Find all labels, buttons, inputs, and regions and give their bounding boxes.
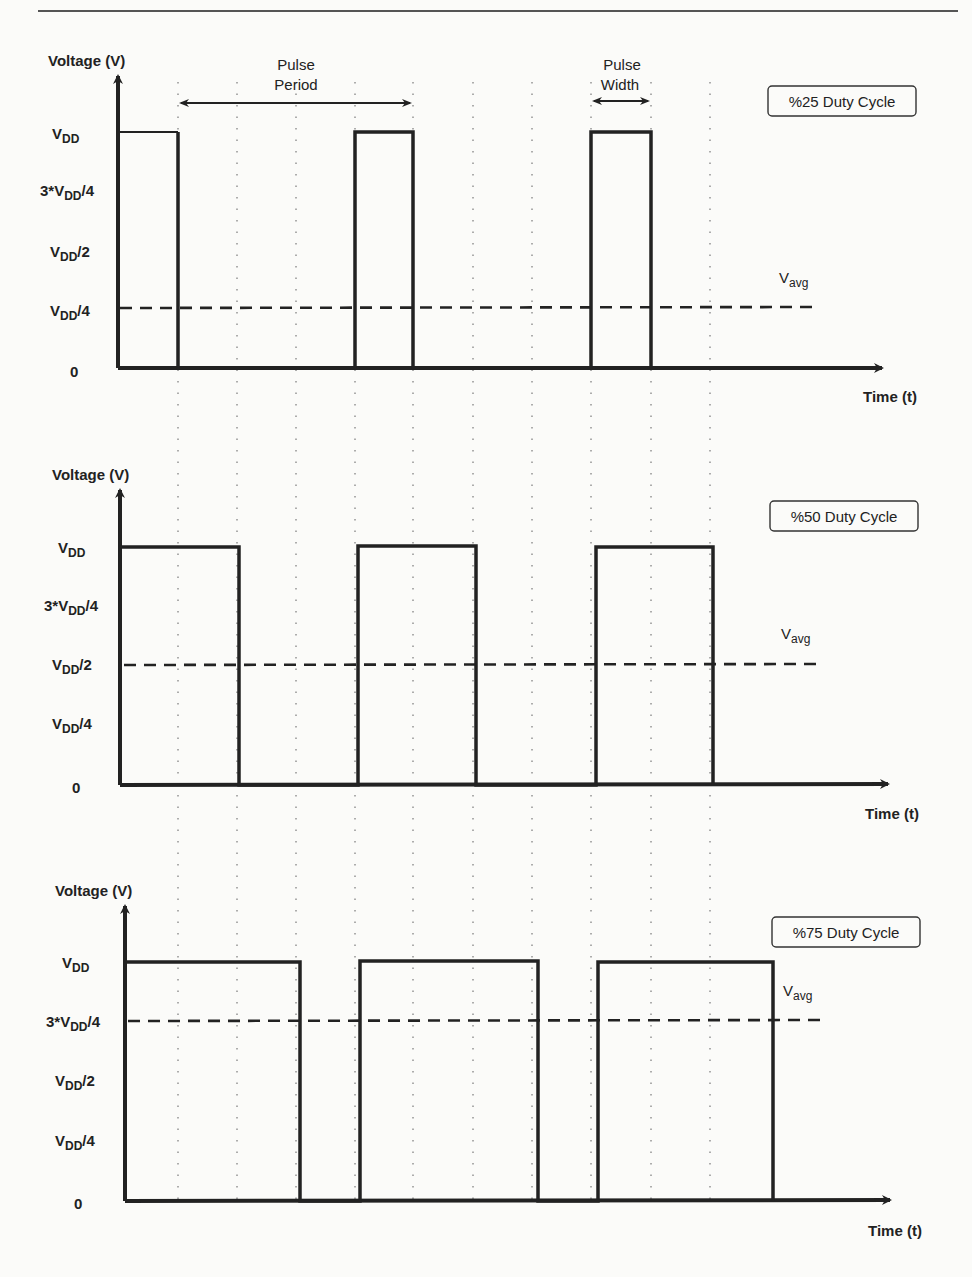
tick-label-zero: 0 bbox=[74, 1195, 82, 1212]
tick-label-3vdd-4: 3*VDD/4 bbox=[44, 597, 99, 618]
tick-label-3vdd-4: 3*VDD/4 bbox=[46, 1013, 101, 1034]
y-axis-title: Voltage (V) bbox=[52, 466, 129, 483]
tick-label-vdd: VDD bbox=[62, 954, 90, 975]
tick-label-vdd-2: VDD/2 bbox=[55, 1072, 95, 1093]
pwm-waveform bbox=[125, 961, 773, 1201]
pulse-period-label-line1: Pulse bbox=[277, 56, 315, 73]
tick-label-vdd-4: VDD/4 bbox=[50, 302, 91, 323]
vavg-line bbox=[120, 307, 820, 308]
tick-label-zero: 0 bbox=[72, 779, 80, 796]
vavg-line bbox=[124, 664, 822, 665]
duty-cycle-badge-text: %25 Duty Cycle bbox=[789, 93, 896, 110]
pulse-width-label-line1: Pulse bbox=[603, 56, 641, 73]
x-axis-title: Time (t) bbox=[863, 388, 917, 405]
tick-label-3vdd-4: 3*VDD/4 bbox=[40, 182, 95, 203]
chart-duty-25: Voltage (V) Time (t) VDD 3*VDD/4 VDD/2 V… bbox=[40, 52, 917, 405]
tick-label-zero: 0 bbox=[70, 363, 78, 380]
duty-cycle-diagram: Voltage (V) Time (t) VDD 3*VDD/4 VDD/2 V… bbox=[0, 0, 972, 1277]
vavg-label: Vavg bbox=[783, 982, 812, 1003]
duty-cycle-badge-text: %50 Duty Cycle bbox=[791, 508, 898, 525]
tick-label-vdd: VDD bbox=[52, 125, 80, 146]
y-axis-title: Voltage (V) bbox=[55, 882, 132, 899]
y-axis-title: Voltage (V) bbox=[48, 52, 125, 69]
vavg-label: Vavg bbox=[779, 269, 808, 290]
duty-cycle-badge-text: %75 Duty Cycle bbox=[793, 924, 900, 941]
vavg-line bbox=[128, 1020, 824, 1021]
vavg-label: Vavg bbox=[781, 625, 810, 646]
tick-label-vdd-4: VDD/4 bbox=[52, 715, 93, 736]
x-axis-title: Time (t) bbox=[868, 1222, 922, 1239]
x-axis-arrow-icon bbox=[125, 1200, 890, 1201]
tick-label-vdd: VDD bbox=[58, 539, 86, 560]
tick-label-vdd-2: VDD/2 bbox=[50, 243, 90, 264]
chart-duty-50: Voltage (V) Time (t) VDD 3*VDD/4 VDD/2 V… bbox=[44, 466, 919, 822]
pwm-waveform bbox=[178, 132, 651, 368]
tick-label-vdd-4: VDD/4 bbox=[55, 1132, 96, 1153]
pulse-period-label-line2: Period bbox=[274, 76, 317, 93]
pulse-width-label-line2: Width bbox=[601, 76, 639, 93]
dotted-gridlines bbox=[178, 82, 710, 1205]
tick-label-vdd-2: VDD/2 bbox=[52, 656, 92, 677]
x-axis-title: Time (t) bbox=[865, 805, 919, 822]
